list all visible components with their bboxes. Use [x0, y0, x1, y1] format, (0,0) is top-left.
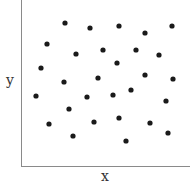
x-axis-label: x [101, 168, 109, 184]
data-point [116, 23, 121, 28]
data-point [87, 25, 92, 30]
data-point [38, 65, 43, 70]
data-point [61, 79, 66, 84]
data-point [156, 52, 161, 57]
data-point [62, 20, 67, 25]
scatter-chart: y x [0, 0, 196, 187]
data-point [70, 133, 75, 138]
data-point [66, 106, 71, 111]
data-point [128, 87, 133, 92]
y-axis-label: y [5, 72, 14, 88]
data-point [147, 120, 152, 125]
data-point [169, 23, 174, 28]
data-point [165, 130, 170, 135]
data-point [44, 41, 49, 46]
data-point [114, 60, 119, 65]
data-point [110, 92, 115, 97]
data-point [142, 72, 147, 77]
data-point [123, 138, 128, 143]
data-point [133, 47, 138, 52]
data-point [170, 76, 175, 81]
data-point [33, 93, 38, 98]
data-point [91, 119, 96, 124]
data-point [84, 94, 89, 99]
data-point [73, 51, 78, 56]
data-point [100, 47, 105, 52]
data-points [33, 20, 175, 143]
data-point [95, 75, 100, 80]
data-point [116, 115, 121, 120]
data-point [46, 121, 51, 126]
data-point [142, 30, 147, 35]
data-point [163, 98, 168, 103]
